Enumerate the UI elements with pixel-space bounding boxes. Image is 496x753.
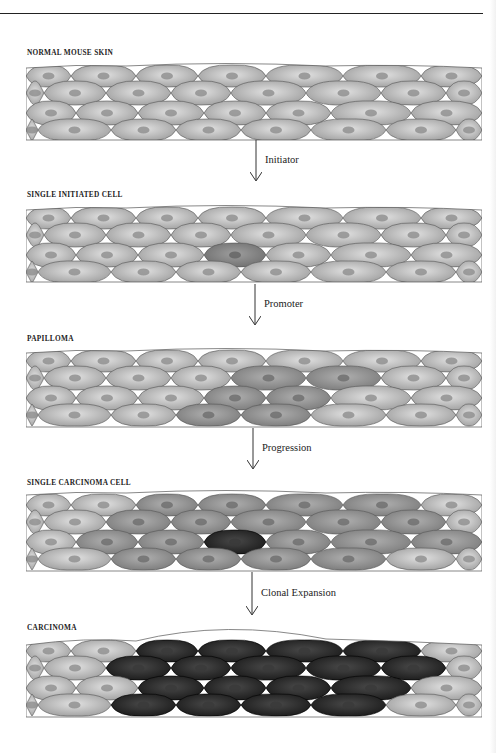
down-arrow-icon xyxy=(246,572,258,616)
transition-label-clonal-expansion: Clonal Expansion xyxy=(261,587,336,598)
stage-label-initiated: SINGLE INITIATED CELL xyxy=(27,190,123,199)
top-rule xyxy=(0,13,483,14)
stage-label-papilloma: PAPILLOMA xyxy=(27,334,74,343)
stage-label-carcinoma-cell: SINGLE CARCINOMA CELL xyxy=(27,478,131,487)
panel-carcinoma-cell xyxy=(26,487,482,573)
down-arrow-icon xyxy=(250,140,262,182)
panel-carcinoma xyxy=(26,623,482,719)
arrow-progression xyxy=(247,428,259,474)
epithelium-normal xyxy=(26,62,482,142)
transition-label-promoter: Promoter xyxy=(264,298,303,309)
panel-papilloma xyxy=(26,347,482,429)
panel-normal-skin xyxy=(26,62,482,142)
panel-initiated xyxy=(26,204,482,284)
stage-label-normal: NORMAL MOUSE SKIN xyxy=(27,48,113,57)
transition-label-progression: Progression xyxy=(262,442,312,453)
arrow-initiator xyxy=(250,140,262,186)
epithelium-carcinoma-cell xyxy=(26,487,482,573)
page-edge-shadow xyxy=(490,0,496,753)
arrow-promoter xyxy=(249,284,261,330)
down-arrow-icon xyxy=(247,428,259,470)
epithelium-carcinoma xyxy=(26,623,482,719)
epithelium-papilloma xyxy=(26,347,482,429)
epithelium-initiated xyxy=(26,204,482,284)
transition-label-initiator: Initiator xyxy=(265,154,299,165)
arrow-clonal-expansion xyxy=(246,572,258,620)
down-arrow-icon xyxy=(249,284,261,326)
